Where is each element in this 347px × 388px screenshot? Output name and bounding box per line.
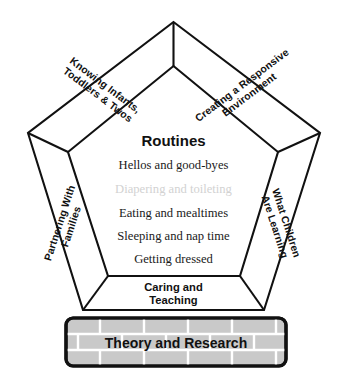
band-bottom-line1: Caring and	[144, 281, 203, 293]
center-item-4: Getting dressed	[134, 252, 213, 266]
center-item-1: Diapering and toileting	[115, 182, 233, 196]
center-heading: Routines	[141, 132, 205, 149]
band-bottom: Caring and Teaching	[144, 281, 203, 306]
routines-pentagon-diagram: Knowing Infants, Toddlers & Twos Creatin…	[0, 0, 347, 388]
center-item-3: Sleeping and nap time	[117, 229, 230, 243]
foundation-label: Theory and Research	[105, 335, 247, 351]
band-bottom-line2: Teaching	[149, 294, 197, 306]
foundation-block: Theory and Research	[66, 318, 286, 366]
center-item-2: Eating and mealtimes	[119, 206, 228, 220]
pentagon-diagram-svg: Knowing Infants, Toddlers & Twos Creatin…	[0, 0, 347, 388]
center-item-0: Hellos and good-byes	[119, 158, 229, 172]
